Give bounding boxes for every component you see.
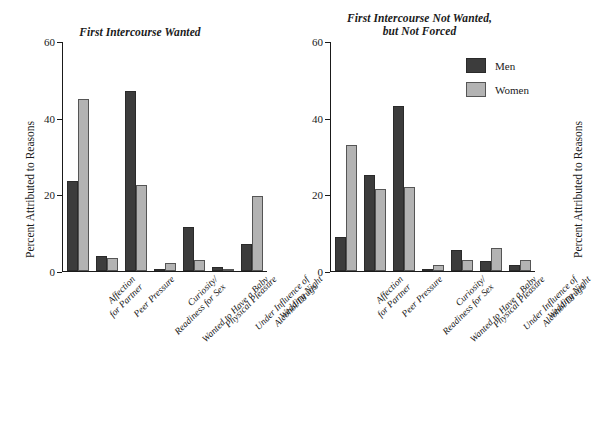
bar-men — [422, 269, 433, 271]
bar-women — [107, 258, 118, 271]
legend-item-men: Men — [466, 58, 556, 73]
bar-group — [63, 42, 92, 271]
bar-women — [346, 145, 357, 272]
panel-title-left: First Intercourse Wanted — [0, 26, 280, 39]
bar-women — [194, 260, 205, 272]
panel-title-right: First Intercourse Not Wanted,but Not For… — [280, 12, 559, 38]
legend-swatch-women-icon — [466, 82, 486, 97]
bar-men — [125, 91, 136, 271]
bar-women — [404, 187, 415, 271]
bar-women — [165, 263, 176, 271]
bar-men — [451, 250, 462, 271]
y-tick-label: 0 — [318, 266, 324, 278]
legend: Men Women — [466, 58, 556, 106]
x-tick-labels-left: Affectionfor PartnerPeer PressureCuriosi… — [62, 274, 267, 404]
y-tick-mark — [325, 42, 330, 43]
bar-group — [208, 42, 237, 271]
x-axis-line-left — [62, 271, 267, 272]
y-axis-label-right: Percent Attributed to Reasons — [572, 121, 584, 258]
y-tick-label: 60 — [44, 36, 55, 48]
y-tick-label: 20 — [312, 189, 323, 201]
bar-group — [150, 42, 179, 271]
legend-item-women: Women — [466, 82, 556, 97]
bar-men — [241, 244, 252, 271]
bar-women — [433, 265, 444, 271]
bar-women — [78, 99, 89, 272]
y-tick-mark — [325, 272, 330, 273]
bar-men — [183, 227, 194, 271]
bar-women — [136, 185, 147, 271]
bar-group — [92, 42, 121, 271]
legend-label-women: Women — [495, 84, 529, 96]
y-tick-label: 60 — [312, 36, 323, 48]
bar-group — [179, 42, 208, 271]
y-tick-mark — [57, 42, 62, 43]
bar-women — [252, 196, 263, 271]
bar-women — [491, 248, 502, 271]
x-tick-label: Peer Pressure — [131, 274, 176, 319]
bar-group — [331, 42, 360, 271]
legend-swatch-men-icon — [466, 58, 486, 73]
bar-men — [212, 267, 223, 271]
bar-women — [375, 189, 386, 271]
y-tick-mark — [57, 272, 62, 273]
bar-men — [364, 175, 375, 271]
x-axis-line-right — [330, 271, 535, 272]
y-tick-mark — [325, 195, 330, 196]
bar-men — [480, 261, 491, 271]
legend-label-men: Men — [495, 60, 515, 72]
bar-group — [121, 42, 150, 271]
bar-men — [154, 269, 165, 271]
x-tick-labels-right: Affectionfor PartnerPeer PressureCuriosi… — [330, 274, 535, 404]
bar-men — [335, 237, 346, 272]
bar-women — [462, 260, 473, 272]
y-tick-label: 40 — [44, 113, 55, 125]
chart-panel-wanted: First Intercourse Wanted Percent Attribu… — [0, 0, 280, 428]
x-tick-label: Peer Pressure — [399, 274, 444, 319]
bar-women — [223, 269, 234, 271]
bar-men — [96, 256, 107, 271]
bar-group-left — [63, 42, 267, 271]
bar-men — [393, 106, 404, 271]
bar-men — [509, 265, 520, 271]
bar-women — [520, 260, 531, 272]
y-tick-mark — [57, 119, 62, 120]
y-axis-label-left: Percent Attributed to Reasons — [24, 121, 36, 258]
bar-group — [389, 42, 418, 271]
y-tick-mark — [325, 119, 330, 120]
bar-group — [360, 42, 389, 271]
y-tick-label: 0 — [50, 266, 56, 278]
plot-area-left: 0204060 Affectionfor PartnerPeer Pressur… — [62, 42, 267, 272]
y-tick-label: 40 — [312, 113, 323, 125]
bar-group — [237, 42, 266, 271]
y-tick-mark — [57, 195, 62, 196]
y-tick-label: 20 — [44, 189, 55, 201]
bar-men — [67, 181, 78, 271]
bar-group — [418, 42, 447, 271]
